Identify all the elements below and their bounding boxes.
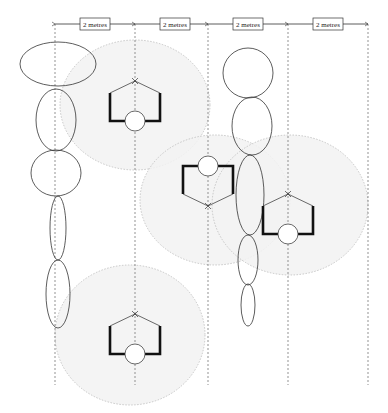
seat-circle — [125, 111, 145, 131]
dimension-label-2: 2 metres — [160, 18, 190, 30]
seat-circle — [278, 224, 298, 244]
arrowhead-icon — [52, 22, 55, 26]
seat-circle — [198, 156, 218, 176]
svg-text:2 metres: 2 metres — [316, 21, 340, 29]
dimension-bar: 2 metres 2 metres 2 metres 2 metres — [55, 18, 368, 30]
ellipse-node — [223, 48, 273, 98]
ellipse-node — [31, 150, 81, 196]
seat-circle — [125, 344, 145, 364]
zone-3 — [212, 135, 368, 275]
ellipse-node — [241, 284, 255, 326]
dimension-label-3: 2 metres — [233, 18, 263, 30]
svg-text:2 metres: 2 metres — [236, 21, 260, 29]
dimension-label-4: 2 metres — [313, 18, 343, 30]
svg-text:2 metres: 2 metres — [163, 21, 187, 29]
zone-4 — [55, 265, 205, 405]
svg-text:2 metres: 2 metres — [83, 21, 107, 29]
dimension-label-1: 2 metres — [80, 18, 110, 30]
workspace-spacing-diagram: 2 metres 2 metres 2 metres 2 metres — [0, 0, 388, 413]
ellipse-node — [50, 196, 66, 260]
proximity-zones — [55, 40, 368, 405]
